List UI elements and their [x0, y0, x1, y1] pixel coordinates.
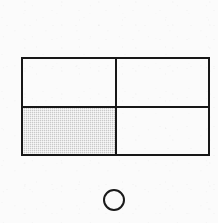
rectangle-cell-bottom-left-shaded[interactable] — [23, 108, 115, 154]
partitioned-rectangle[interactable] — [21, 57, 210, 156]
circle-outline[interactable] — [103, 189, 125, 211]
rectangle-cell-top-right[interactable] — [117, 59, 208, 106]
rectangle-cell-bottom-right[interactable] — [117, 108, 208, 154]
figure-canvas — [0, 0, 218, 223]
rectangle-cell-top-left[interactable] — [23, 59, 115, 106]
rectangle-divider-horizontal — [23, 106, 208, 108]
